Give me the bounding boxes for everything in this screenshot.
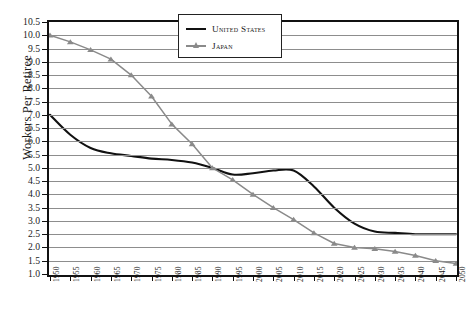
y-axis-tick-label: 7.5 <box>10 97 40 107</box>
x-axis-tick-label: 1960 <box>94 266 102 282</box>
y-axis-tick-label: 1.0 <box>10 269 40 279</box>
gridline <box>49 62 457 63</box>
x-axis-tick-label: 2035 <box>398 266 406 282</box>
y-axis-tick-label: 5.0 <box>10 163 40 173</box>
y-axis-tick-label: 1.5 <box>10 256 40 266</box>
series-united-states <box>50 115 456 234</box>
y-axis-tick-label: 4.5 <box>10 176 40 186</box>
chart-container: Workers Per Retiree 1.01.52.02.53.03.54.… <box>0 0 475 311</box>
x-axis-tick-mark <box>253 276 254 281</box>
x-axis-tick-mark <box>172 276 173 281</box>
gridline <box>49 221 457 222</box>
x-axis-tick-mark <box>436 276 437 281</box>
x-axis-tick-label: 1970 <box>134 266 142 282</box>
legend-line-swatch-icon <box>186 23 206 34</box>
legend-label-japan: Japan <box>212 41 233 51</box>
plot-inner <box>49 22 457 275</box>
gridline <box>49 102 457 103</box>
x-axis-tick-mark <box>395 276 396 281</box>
data-series-layer <box>49 22 457 274</box>
x-axis-tick-label: 1985 <box>195 266 203 282</box>
y-axis-tick-label: 4.0 <box>10 189 40 199</box>
x-axis-tick-label: 2005 <box>276 266 284 282</box>
x-axis-tick-mark <box>456 276 457 281</box>
plot-area <box>47 20 459 277</box>
series-japan <box>49 33 457 266</box>
legend: United States Japan <box>178 14 282 58</box>
gridline <box>49 115 457 116</box>
y-axis-tick-label: 3.5 <box>10 203 40 213</box>
x-axis-tick-mark <box>355 276 356 281</box>
y-axis-tick-label: 8.5 <box>10 70 40 80</box>
y-axis-tick-label: 8.0 <box>10 83 40 93</box>
x-axis-tick-mark <box>233 276 234 281</box>
y-axis-tick-label: 7.0 <box>10 110 40 120</box>
gridline <box>49 155 457 156</box>
y-axis-tick-label: 9.0 <box>10 57 40 67</box>
y-axis-tick-label: 6.0 <box>10 136 40 146</box>
x-axis-tick-label: 2025 <box>358 266 366 282</box>
data-point-marker <box>108 56 115 61</box>
x-axis-tick-mark <box>375 276 376 281</box>
gridline <box>49 168 457 169</box>
gridline <box>49 194 457 195</box>
x-axis-tick-label: 2045 <box>439 266 447 282</box>
x-axis-tick-mark <box>192 276 193 281</box>
series-line <box>50 115 456 234</box>
x-axis-tick-mark <box>294 276 295 281</box>
x-axis-tick-mark <box>50 276 51 281</box>
y-axis-tick-label: 6.5 <box>10 123 40 133</box>
x-axis-tick-label: 2015 <box>317 266 325 282</box>
x-axis-tick-label: 2000 <box>256 266 264 282</box>
gridline <box>49 88 457 89</box>
x-axis-tick-label: 1995 <box>236 266 244 282</box>
x-axis-tick-mark <box>111 276 112 281</box>
gridline <box>49 261 457 262</box>
gridline <box>49 234 457 235</box>
y-axis-tick-label: 10.0 <box>10 30 40 40</box>
x-axis-tick-label: 2020 <box>337 266 345 282</box>
gridline <box>49 128 457 129</box>
x-axis-tick-label: 1990 <box>215 266 223 282</box>
y-axis-tick-label: 2.0 <box>10 242 40 252</box>
x-axis-tick-mark <box>91 276 92 281</box>
x-axis-tick-label: 2040 <box>418 266 426 282</box>
x-axis-tick-label: 2050 <box>459 266 467 282</box>
x-axis-tick-mark <box>152 276 153 281</box>
y-axis-tick-label: 5.5 <box>10 150 40 160</box>
x-axis-tick-label: 2030 <box>378 266 386 282</box>
gridline <box>49 75 457 76</box>
x-axis-tick-label: 1975 <box>155 266 163 282</box>
y-axis-tick-label: 2.5 <box>10 229 40 239</box>
gridline <box>49 141 457 142</box>
gridline <box>49 181 457 182</box>
y-axis-tick-label: 10.5 <box>10 17 40 27</box>
y-axis-tick-label: 9.5 <box>10 44 40 54</box>
x-axis-tick-label: 1955 <box>73 266 81 282</box>
gridline <box>49 247 457 248</box>
gridline <box>49 208 457 209</box>
x-axis-tick-mark <box>314 276 315 281</box>
legend-item-united-states: United States <box>186 20 281 37</box>
x-axis-tick-label: 1950 <box>53 266 61 282</box>
y-axis-tick-label: 3.0 <box>10 216 40 226</box>
legend-item-japan: Japan <box>186 37 281 54</box>
series-line <box>50 35 456 263</box>
x-axis-tick-label: 2010 <box>297 266 305 282</box>
legend-triangle-marker-icon <box>186 40 206 51</box>
x-axis-tick-label: 1980 <box>175 266 183 282</box>
x-axis-tick-label: 1965 <box>114 266 122 282</box>
legend-label-united-states: United States <box>212 24 265 34</box>
